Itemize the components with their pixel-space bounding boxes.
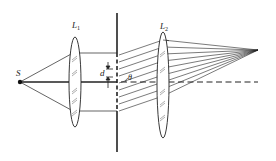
- lens-l2: [157, 32, 169, 138]
- diffracted-rays: [119, 40, 163, 111]
- converging-rays: [163, 40, 258, 96]
- label-spacing-d: d: [100, 68, 105, 78]
- label-lens2: L2: [159, 21, 168, 32]
- point-source: [18, 80, 22, 84]
- ray-source-lower: [20, 82, 73, 111]
- spacing-d-marker: [106, 62, 113, 88]
- label-angle-theta: θ: [128, 73, 132, 82]
- label-source: S: [16, 68, 21, 78]
- label-lens1: L1: [71, 20, 80, 31]
- ray-source-upper: [20, 53, 73, 82]
- optics-diagram: S L1 L2 d θ: [0, 0, 276, 161]
